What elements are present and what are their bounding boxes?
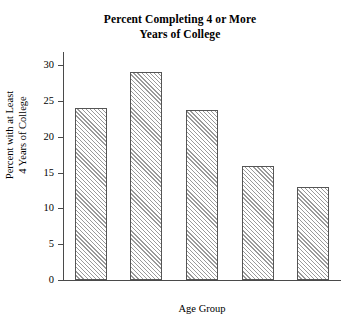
y-axis-tick-label: 5 (49, 236, 54, 252)
y-axis-tick: 5 (58, 244, 63, 245)
y-axis-tick-label: 15 (44, 165, 55, 181)
bar (130, 72, 162, 280)
chart-title-line-1: Percent Completing 4 or More (0, 12, 360, 27)
y-axis-tick: 0 (58, 280, 63, 281)
y-axis-title-line-2: 4 Years of College (16, 75, 29, 195)
y-axis-tick-label: 10 (44, 200, 55, 216)
y-axis-tick-label: 30 (44, 57, 55, 73)
y-axis-tick: 15 (58, 173, 63, 174)
y-axis-tick-label: 0 (49, 272, 54, 288)
bar (242, 166, 274, 281)
y-axis-title: Percent with at Least 4 Years of College (3, 75, 29, 195)
bar (75, 108, 107, 280)
plot-area: 051015202530 25–3435–4445–5455–64over 65 (63, 52, 341, 281)
chart-title-line-2: Years of College (0, 27, 360, 42)
y-axis-tick: 20 (58, 137, 63, 138)
y-axis-spine (63, 52, 64, 281)
y-axis-title-line-1: Percent with at Least (3, 75, 16, 195)
y-axis-tick-label: 20 (44, 129, 55, 145)
bar-chart-figure: Percent Completing 4 or More Years of Co… (0, 0, 360, 329)
x-axis-title: Age Group (63, 303, 341, 314)
y-axis-tick: 25 (58, 101, 63, 102)
y-axis-tick: 10 (58, 208, 63, 209)
y-axis-tick-label: 25 (44, 93, 55, 109)
chart-title: Percent Completing 4 or More Years of Co… (0, 12, 360, 42)
bar (297, 187, 329, 280)
y-axis-tick: 30 (58, 65, 63, 66)
bar (186, 110, 218, 280)
x-axis-spine (63, 280, 341, 281)
